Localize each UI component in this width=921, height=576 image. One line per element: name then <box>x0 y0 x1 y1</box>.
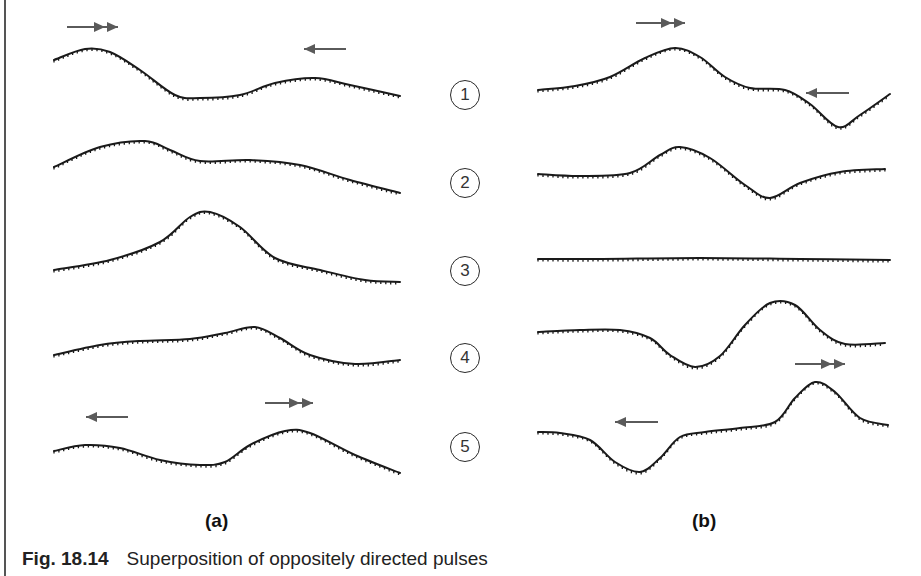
stage-5-label: 5 <box>450 432 480 462</box>
pulse-curve-a-stage-3 <box>54 211 400 282</box>
stage-number: 2 <box>460 173 469 193</box>
pulse-texture <box>54 48 398 101</box>
left-arrow-icon <box>304 44 346 54</box>
pulse-curve-a-stage-4 <box>54 327 400 364</box>
panel-a-label: (a) <box>205 510 228 532</box>
double-right-arrow-icon <box>265 398 313 408</box>
pulse-texture <box>538 48 886 130</box>
left-arrow-icon <box>86 412 128 422</box>
panel-a-pulses <box>54 48 400 475</box>
stage-number: 5 <box>460 437 469 457</box>
figure-caption: Fig. 18.14Superposition of oppositely di… <box>22 548 488 570</box>
figure-number: Fig. 18.14 <box>22 548 109 569</box>
double-right-arrow-icon <box>636 18 685 28</box>
pulse-texture <box>538 301 880 370</box>
pulse-texture <box>538 382 888 475</box>
stage-number: 3 <box>460 261 469 281</box>
pulse-curve-a-stage-1 <box>54 48 400 98</box>
pulse-curve-b-stage-3 <box>538 258 890 260</box>
pulse-curve-b-stage-1 <box>538 48 890 127</box>
pulse-curve-b-stage-2 <box>538 147 885 198</box>
stage-3-label: 3 <box>450 256 480 286</box>
pulse-curve-a-stage-5 <box>54 430 400 473</box>
left-arrow-icon <box>615 417 658 427</box>
figure-caption-text: Superposition of oppositely directed pul… <box>127 548 488 569</box>
stage-4-label: 4 <box>450 343 480 373</box>
panel-b-label: (b) <box>692 510 716 532</box>
stage-number: 4 <box>460 348 469 368</box>
pulse-curve-b-stage-4 <box>538 301 885 367</box>
stage-2-label: 2 <box>450 168 480 198</box>
stage-1-label: 1 <box>450 80 480 110</box>
double-right-arrow-icon <box>67 22 118 32</box>
stage-number: 1 <box>460 85 469 105</box>
pulse-curve-a-stage-2 <box>54 141 400 193</box>
left-arrow-icon <box>806 88 849 98</box>
double-right-arrow-icon <box>795 359 845 369</box>
pulse-texture <box>54 430 399 475</box>
pulse-texture <box>54 211 396 284</box>
panel-b-pulses <box>538 48 890 475</box>
pulse-texture <box>54 141 396 195</box>
pulse-curve-b-stage-5 <box>538 382 888 472</box>
